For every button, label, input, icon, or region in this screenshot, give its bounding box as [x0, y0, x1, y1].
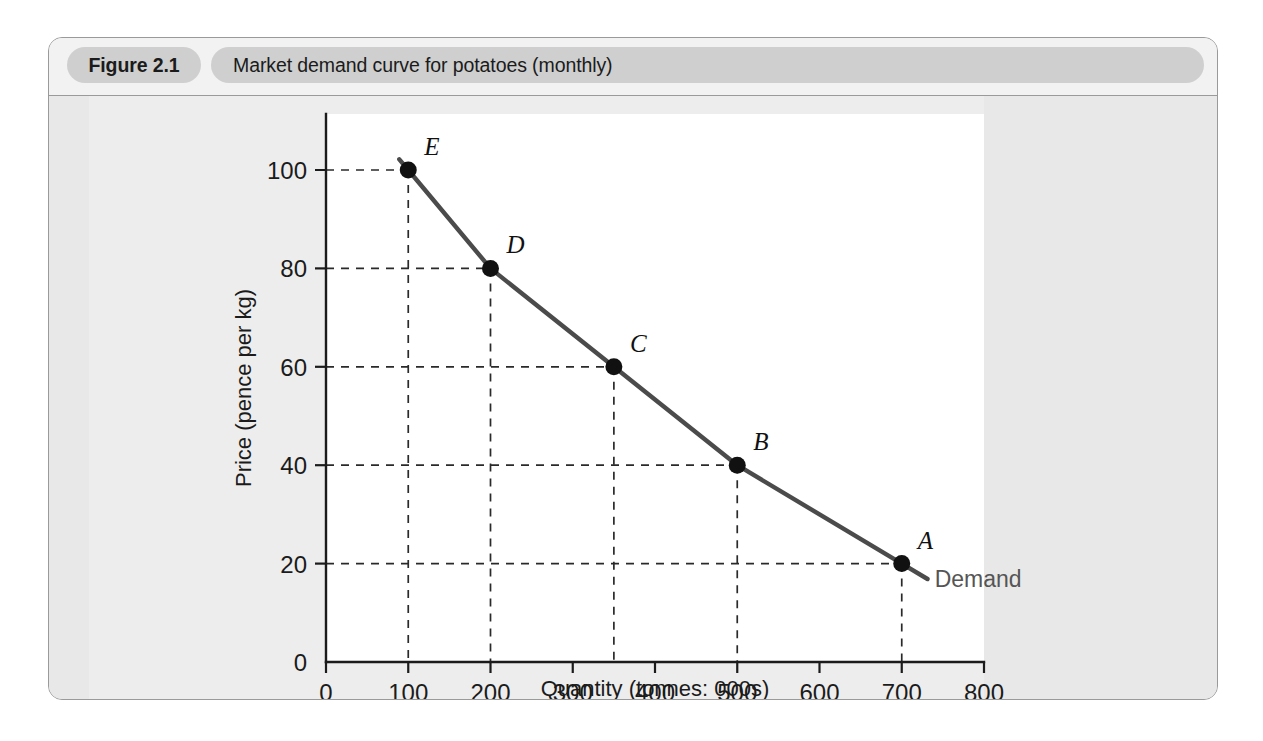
x-axis-title: Quantity (tonnes: 000s) — [541, 676, 770, 700]
y-tick-label: 60 — [280, 354, 307, 381]
data-point-marker — [400, 162, 417, 179]
data-point-marker — [605, 358, 622, 375]
curve-label: Demand — [935, 566, 1022, 592]
x-tick-label: 0 — [319, 679, 332, 700]
figure-body: 0100200300400500600700800 020406080100 E… — [49, 96, 1217, 699]
data-point-label: D — [506, 231, 525, 258]
y-axis-title: Price (pence per kg) — [231, 289, 256, 487]
y-tick-label: 20 — [280, 551, 307, 578]
data-point-marker — [729, 457, 746, 474]
y-tick-label: 40 — [280, 452, 307, 479]
data-point-marker — [482, 260, 499, 277]
data-point-label: A — [916, 527, 934, 554]
plot-area-background — [326, 114, 984, 662]
y-tick-label: 0 — [294, 649, 307, 676]
x-tick-label: 200 — [470, 679, 510, 700]
data-point-marker — [893, 555, 910, 572]
figure-caption-bar: Figure 2.1 Market demand curve for potat… — [49, 38, 1217, 96]
curve-annotations: Demand — [935, 566, 1022, 592]
y-tick-label: 80 — [280, 255, 307, 282]
y-axis-ticks: 020406080100 — [267, 157, 326, 676]
x-tick-label: 100 — [388, 679, 428, 700]
figure-number-label: Figure 2.1 — [88, 54, 179, 77]
data-point-label: C — [630, 330, 647, 357]
data-point-label: E — [423, 133, 439, 160]
figure-title-label: Market demand curve for potatoes (monthl… — [233, 54, 612, 77]
figure-number-pill: Figure 2.1 — [67, 47, 201, 83]
demand-curve-chart: 0100200300400500600700800 020406080100 E… — [49, 96, 1218, 700]
x-tick-label: 700 — [882, 679, 922, 700]
figure-panel: Figure 2.1 Market demand curve for potat… — [48, 37, 1218, 700]
figure-title-pill: Market demand curve for potatoes (monthl… — [211, 47, 1204, 83]
y-tick-label: 100 — [267, 157, 307, 184]
data-point-label: B — [753, 428, 768, 455]
x-tick-label: 800 — [964, 679, 1004, 700]
x-tick-label: 600 — [799, 679, 839, 700]
